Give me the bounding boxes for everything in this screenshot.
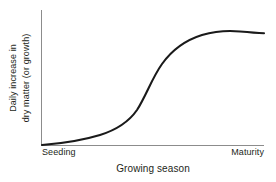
- growth-curve-figure: Daily increase in dry matter (or growth)…: [0, 0, 276, 182]
- x-tick-label-maturity: Maturity: [231, 148, 264, 157]
- growth-curve-path: [42, 31, 264, 145]
- y-axis-label-line-2: dry matter (or growth): [22, 34, 31, 123]
- y-axis-label-line-1: Daily increase in: [9, 44, 18, 112]
- x-tick-label-seeding: Seeding: [42, 148, 76, 157]
- x-axis-title: Growing season: [116, 164, 190, 174]
